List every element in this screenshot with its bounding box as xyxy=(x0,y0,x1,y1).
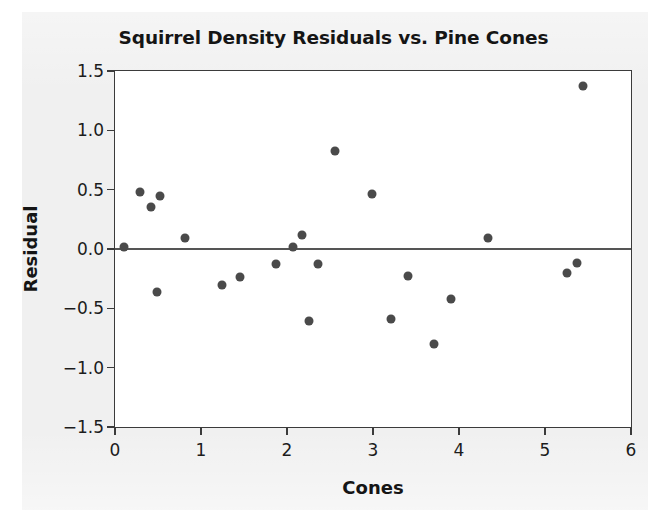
x-axis-tick-label: 3 xyxy=(368,440,379,460)
x-axis-tick xyxy=(458,427,460,435)
y-axis-tick xyxy=(107,70,115,72)
y-axis-tick-label: −1.5 xyxy=(63,417,104,437)
data-point xyxy=(155,191,164,200)
x-axis-tick xyxy=(200,427,202,435)
y-axis-tick-label: −0.5 xyxy=(63,298,104,318)
data-point xyxy=(147,203,156,212)
page-title: Squirrel Density Residuals vs. Pine Cone… xyxy=(0,27,667,48)
data-point xyxy=(153,287,162,296)
data-point xyxy=(235,273,244,282)
y-axis-tick-label: −1.0 xyxy=(63,358,104,378)
data-point xyxy=(404,272,413,281)
data-point xyxy=(430,339,439,348)
data-point xyxy=(578,82,587,91)
x-axis-tick xyxy=(286,427,288,435)
data-point xyxy=(297,230,306,239)
x-axis-tick-label: 2 xyxy=(282,440,293,460)
data-point xyxy=(368,190,377,199)
data-point xyxy=(217,280,226,289)
zero-reference-line xyxy=(115,248,631,250)
y-axis-tick-label: 0.5 xyxy=(77,180,104,200)
figure-canvas: Squirrel Density Residuals vs. Pine Cone… xyxy=(0,0,667,526)
x-axis-tick-label: 5 xyxy=(540,440,551,460)
y-axis-tick-label: 1.5 xyxy=(77,61,104,81)
y-axis-tick xyxy=(107,308,115,310)
x-axis-tick-label: 0 xyxy=(110,440,121,460)
y-axis-tick xyxy=(107,367,115,369)
data-point xyxy=(289,242,298,251)
x-axis-tick-label: 4 xyxy=(454,440,465,460)
data-point xyxy=(135,188,144,197)
x-axis-tick-label: 6 xyxy=(626,440,637,460)
data-point xyxy=(484,234,493,243)
x-axis-tick xyxy=(114,427,116,435)
y-axis-tick xyxy=(107,248,115,250)
y-axis-tick-label: 1.0 xyxy=(77,120,104,140)
data-point xyxy=(562,268,571,277)
x-axis-label: Cones xyxy=(114,477,632,498)
data-point xyxy=(271,260,280,269)
x-axis-tick-label: 1 xyxy=(196,440,207,460)
data-point xyxy=(180,234,189,243)
y-axis-label: Residual xyxy=(20,206,41,293)
data-point xyxy=(447,294,456,303)
y-axis-tick-label: 0.0 xyxy=(77,239,104,259)
data-point xyxy=(331,146,340,155)
data-point xyxy=(313,260,322,269)
x-axis-tick xyxy=(372,427,374,435)
plot-area xyxy=(115,71,631,427)
x-axis-tick xyxy=(630,427,632,435)
data-point xyxy=(572,259,581,268)
y-axis-tick xyxy=(107,189,115,191)
data-point xyxy=(387,315,396,324)
y-axis-tick xyxy=(107,130,115,132)
data-point xyxy=(119,242,128,251)
data-point xyxy=(305,317,314,326)
plot-frame: −1.5−1.0−0.50.00.51.01.50123456 xyxy=(114,70,632,428)
x-axis-tick xyxy=(544,427,546,435)
